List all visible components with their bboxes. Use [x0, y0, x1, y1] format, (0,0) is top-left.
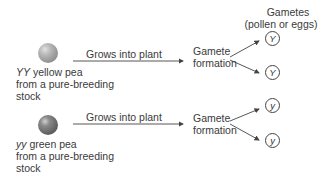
- yellow-grows-label: Grows into plant: [86, 48, 162, 60]
- gamete-green-2: y: [265, 133, 280, 148]
- green-process-line1: Gamete: [193, 112, 230, 124]
- yellow-source-line2: stock: [16, 90, 41, 102]
- pea-label-text: green pea: [29, 138, 76, 150]
- green-pea-label: yy green pea: [16, 138, 77, 150]
- green-source-line1: from a pure-breeding: [16, 150, 114, 162]
- gamete-yellow-1: Y: [265, 31, 280, 46]
- green-source-line2: stock: [16, 162, 41, 174]
- gametes-title: Gametes: [258, 6, 318, 18]
- genotype-yy-dominant: YY: [16, 66, 30, 78]
- gamete-arrow-green-1: [230, 109, 259, 121]
- gametes-subtitle: (pollen or eggs): [241, 18, 321, 30]
- yellow-process-line2: formation: [193, 57, 237, 69]
- yellow-process-line1: Gamete: [193, 45, 230, 57]
- gamete-arrow-yellow-1: [230, 41, 259, 57]
- green-pea-icon: [38, 115, 58, 135]
- pea-label-text: yellow pea: [33, 66, 83, 78]
- gamete-yellow-2: Y: [265, 65, 280, 80]
- gamete-green-1: y: [265, 98, 280, 113]
- yellow-pea-icon: [38, 43, 58, 63]
- genotype-yy-recessive: yy: [16, 138, 27, 150]
- yellow-pea-label: YY yellow pea: [16, 66, 83, 78]
- yellow-source-line1: from a pure-breeding: [16, 78, 114, 90]
- green-grows-label: Grows into plant: [86, 111, 162, 123]
- green-process-line2: formation: [193, 124, 237, 136]
